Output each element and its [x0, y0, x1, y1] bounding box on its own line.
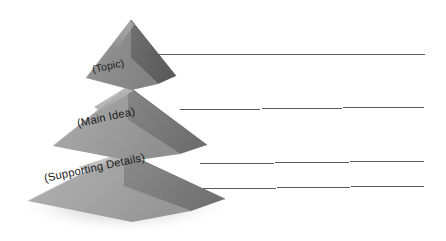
- pyramid-diagram: (Topic) (Main Idea) (Supporting Details): [0, 0, 446, 241]
- diagram-canvas: (Topic) (Main Idea) (Supporting Details): [0, 0, 446, 241]
- leader-line-2[interactable]: [180, 107, 425, 110]
- leader-lines-group: [145, 54, 425, 189]
- leader-line-4[interactable]: [203, 186, 425, 189]
- pyramid-tier-topic[interactable]: [86, 20, 176, 90]
- leader-line-3[interactable]: [200, 161, 425, 164]
- pyramid-tier-main-idea[interactable]: [53, 86, 207, 161]
